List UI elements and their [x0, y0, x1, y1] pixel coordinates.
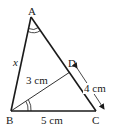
label-bd-length: 3 cm [26, 74, 48, 86]
triangle-diagram: A B C D x 3 cm 4 cm 5 cm [0, 0, 114, 131]
label-a: A [28, 5, 36, 17]
label-ab-x: x [12, 56, 18, 68]
label-bc-length: 5 cm [41, 114, 63, 126]
label-b: B [6, 114, 13, 126]
angle-mark-b [26, 102, 28, 112]
angle-mark-a-inner [28, 31, 41, 33]
label-d: D [68, 57, 76, 69]
label-c: C [92, 114, 99, 126]
angle-mark-a [29, 28, 39, 30]
side-ca [31, 17, 96, 111]
label-dc-length: 4 cm [84, 82, 106, 94]
angle-mark-b-inner [29, 100, 32, 111]
